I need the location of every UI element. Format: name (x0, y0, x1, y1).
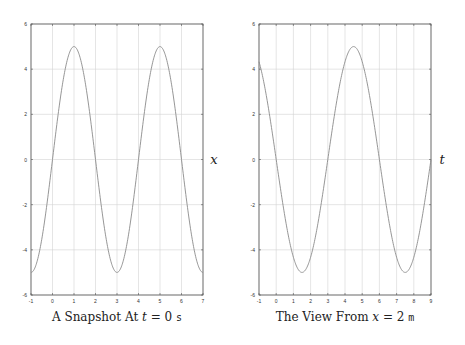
y-tick-label: 4 (252, 66, 255, 72)
x-tick-label: 2 (94, 298, 97, 304)
y-tick-label: -4 (23, 247, 28, 253)
chart-caption: A Snapshot At t = 0 s (51, 310, 182, 324)
x-tick-label: 1 (73, 298, 76, 304)
grid-lines (31, 24, 203, 295)
chart-caption: The View From x = 2 m (276, 310, 415, 324)
x-axis-label: x (210, 152, 218, 167)
y-tick-label: -2 (251, 202, 256, 208)
x-tick-label: 6 (180, 298, 183, 304)
y-tick-label: 0 (252, 157, 255, 163)
x-tick-label: 1 (292, 298, 295, 304)
y-tick-label: -2 (23, 202, 28, 208)
x-tick-label: 7 (202, 298, 205, 304)
y-tick-label: 6 (24, 21, 27, 27)
y-tick-label: -4 (251, 247, 256, 253)
figure: -101234567-6-4-20246xA Snapshot At t = 0… (0, 0, 465, 345)
x-axis-label: t (439, 152, 445, 167)
y-tick-label: 2 (24, 111, 27, 117)
x-tick-label: 5 (159, 298, 162, 304)
x-tick-label: -1 (257, 298, 262, 304)
y-tick-label: 0 (24, 157, 27, 163)
x-tick-label: 0 (275, 298, 278, 304)
x-tick-label: 5 (361, 298, 364, 304)
x-tick-label: -1 (29, 298, 34, 304)
chart-view-from-x: -10123456789-6-4-20246tThe View From x =… (251, 21, 446, 324)
x-tick-label: 2 (309, 298, 312, 304)
y-tick-label: -6 (251, 292, 256, 298)
x-tick-label: 0 (51, 298, 54, 304)
y-tick-label: 2 (252, 111, 255, 117)
grid-lines (259, 24, 431, 295)
x-tick-label: 4 (137, 298, 140, 304)
y-tick-label: -6 (23, 292, 28, 298)
x-tick-label: 4 (344, 298, 347, 304)
x-tick-label: 7 (395, 298, 398, 304)
x-tick-label: 3 (116, 298, 119, 304)
x-tick-label: 8 (412, 298, 415, 304)
x-tick-label: 3 (326, 298, 329, 304)
x-tick-label: 9 (430, 298, 433, 304)
y-tick-label: 4 (24, 66, 27, 72)
chart-snapshot: -101234567-6-4-20246xA Snapshot At t = 0… (23, 21, 219, 324)
y-tick-label: 6 (252, 21, 255, 27)
x-tick-label: 6 (378, 298, 381, 304)
